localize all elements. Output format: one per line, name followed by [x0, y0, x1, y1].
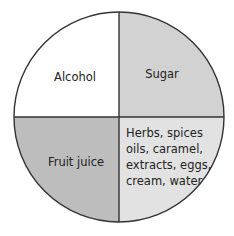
label-alcohol: Alcohol [54, 70, 96, 84]
label-herbs-line1: Herbs, spices [126, 126, 203, 140]
label-fruit-juice: Fruit juice [48, 155, 104, 169]
label-herbs-line4: cream, water [126, 174, 202, 188]
slice-sugar [119, 12, 224, 117]
pie-chart: Alcohol Sugar Fruit juice Herbs, spices … [0, 0, 234, 236]
label-sugar: Sugar [145, 67, 179, 81]
label-herbs-line3: extracts, eggs, [126, 158, 211, 172]
slice-fruit-juice [14, 117, 119, 222]
label-herbs-line2: oils, caramel, [126, 142, 203, 156]
slice-alcohol [14, 12, 119, 117]
